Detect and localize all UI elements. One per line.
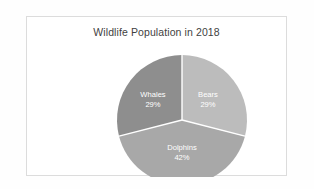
pie-slice-name-bears: Bears [198,90,218,99]
chart-frame: Wildlife Population in 2018 Bears29%Dolp… [26,16,287,176]
page-background: Wildlife Population in 2018 Bears29%Dolp… [0,0,314,189]
pie-slice-name-whales: Whales [140,90,166,99]
pie-chart-svg: Bears29%Dolphins42%Whales29% [27,17,288,177]
pie-chart: Bears29%Dolphins42%Whales29% [27,17,288,177]
pie-slice-value-dolphins: 42% [174,153,189,162]
pie-slice-value-bears: 29% [200,100,215,109]
pie-slice-name-dolphins: Dolphins [167,143,197,152]
pie-slice-value-whales: 29% [145,100,160,109]
